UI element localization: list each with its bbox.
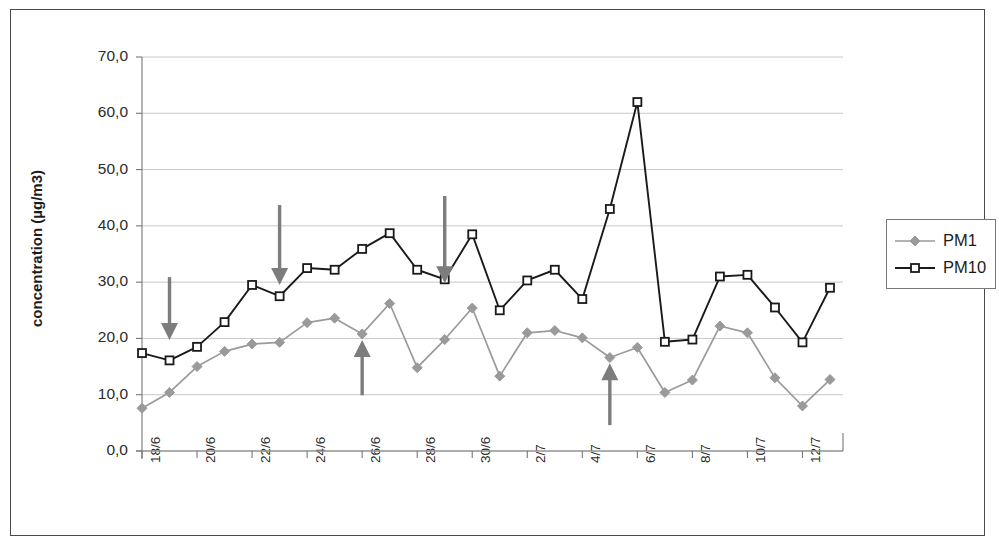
marker-pm10 <box>743 271 751 279</box>
legend-marker-square <box>911 264 919 272</box>
legend-label: PM10 <box>943 258 986 277</box>
marker-pm10 <box>496 306 504 314</box>
annotation-arrow-up-head <box>601 363 618 380</box>
marker-pm1 <box>715 321 725 331</box>
marker-pm1 <box>495 371 505 381</box>
series-line-pm10 <box>142 102 830 360</box>
marker-pm1 <box>742 328 752 338</box>
series-line-pm1 <box>142 304 830 409</box>
marker-pm10 <box>248 281 256 289</box>
marker-pm1 <box>137 403 147 413</box>
annotation-arrow-down-head <box>161 323 178 340</box>
marker-pm1 <box>247 339 257 349</box>
legend-entry-pm10[interactable]: PM10 <box>893 254 986 281</box>
marker-pm10 <box>358 245 366 253</box>
chart-figure: concentration (µg/m3) 0,010,020,030,040,… <box>0 0 999 548</box>
marker-pm10 <box>523 276 531 284</box>
marker-pm10 <box>606 205 614 213</box>
marker-pm10 <box>798 338 806 346</box>
marker-pm10 <box>331 266 339 274</box>
marker-pm10 <box>303 264 311 272</box>
marker-pm10 <box>221 318 229 326</box>
marker-pm1 <box>687 375 697 385</box>
marker-pm10 <box>578 295 586 303</box>
marker-pm1 <box>330 313 340 323</box>
chart-legend: PM1PM10 <box>886 219 996 289</box>
marker-pm10 <box>771 303 779 311</box>
legend-swatch-pm1 <box>893 233 937 249</box>
plot-canvas <box>0 0 999 548</box>
marker-pm1 <box>220 346 230 356</box>
marker-pm10 <box>826 284 834 292</box>
marker-pm10 <box>551 266 559 274</box>
marker-pm10 <box>716 273 724 281</box>
legend-entry-pm1[interactable]: PM1 <box>893 227 986 254</box>
legend-label: PM1 <box>943 231 977 250</box>
marker-pm10 <box>276 292 284 300</box>
marker-pm10 <box>138 349 146 357</box>
marker-pm10 <box>166 356 174 364</box>
legend-marker-diamond <box>910 236 920 246</box>
marker-pm10 <box>413 266 421 274</box>
marker-pm1 <box>660 387 670 397</box>
marker-pm10 <box>688 336 696 344</box>
marker-pm10 <box>193 343 201 351</box>
marker-pm1 <box>522 328 532 338</box>
marker-pm10 <box>661 338 669 346</box>
legend-swatch-pm10 <box>893 260 937 276</box>
marker-pm10 <box>633 98 641 106</box>
marker-pm10 <box>386 229 394 237</box>
annotation-arrow-up-head <box>354 340 371 357</box>
marker-pm1 <box>550 326 560 336</box>
marker-pm10 <box>468 230 476 238</box>
marker-pm1 <box>632 342 642 352</box>
annotation-arrow-down-head <box>436 266 453 283</box>
